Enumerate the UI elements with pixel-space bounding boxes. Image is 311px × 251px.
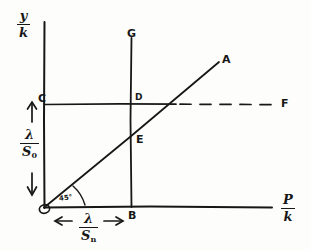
lambda-over-s0-label: λ S0 — [20, 128, 39, 159]
y-axis-label-numerator: y — [17, 9, 30, 24]
point-label-a: A — [222, 54, 231, 65]
y-axis-line — [44, 22, 45, 208]
lambda-over-s0-denominator: S0 — [20, 143, 39, 159]
point-label-g: G — [127, 28, 136, 39]
angle-arc-45 — [73, 186, 85, 205]
lambda-over-sn-label: λ Sn — [79, 212, 98, 243]
point-label-c: C — [38, 93, 46, 104]
point-label-d: D — [135, 93, 142, 102]
point-label-b: B — [128, 210, 136, 221]
lambda-over-sn-denominator: Sn — [79, 227, 98, 243]
y-axis-label: y k — [17, 9, 30, 39]
point-label-f: F — [281, 98, 289, 109]
hand-drawn-graph-figure: y k P k λ S0 λ Sn 45° O C B G D E A F — [0, 0, 311, 251]
lambda-over-s0-numerator: λ — [20, 128, 39, 143]
y-axis-label-denominator: k — [17, 24, 30, 40]
point-label-e: E — [136, 134, 144, 145]
lambda-over-sn-numerator: λ — [79, 212, 98, 227]
x-axis-label-denominator: k — [281, 208, 295, 224]
x-axis-label-numerator: P — [281, 193, 295, 208]
graph-canvas — [0, 0, 311, 251]
angle-label-45: 45° — [59, 193, 73, 203]
horizontal-line-cd-solid — [45, 104, 176, 105]
x-axis-line — [44, 207, 272, 208]
vertical-line-gb — [131, 38, 132, 207]
diagonal-line-oa — [46, 62, 219, 206]
x-axis-label: P k — [281, 193, 295, 223]
